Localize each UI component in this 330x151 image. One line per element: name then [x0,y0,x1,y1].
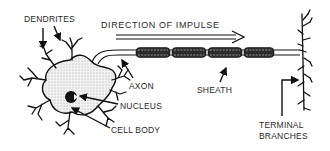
label-sheath: SHEATH [197,86,232,95]
neuron-diagram: DENDRITES DIRECTION OF IMPULSE AXON NUCL… [0,0,330,151]
terminal-branches-shape [298,10,312,110]
label-direction-of-impulse: DIRECTION OF IMPULSE [101,21,220,30]
label-terminal-line1: TERMINAL [259,120,308,131]
label-nucleus: NUCLEUS [120,102,162,111]
label-terminal-branches: TERMINAL BRANCHES [259,120,308,141]
label-terminal-line2: BRANCHES [259,131,308,142]
sheath-shape [136,48,274,58]
label-axon: AXON [129,82,154,91]
label-dendrites: DENDRITES [24,15,75,24]
label-cell-body: CELL BODY [111,126,160,135]
impulse-arrow [116,31,244,43]
